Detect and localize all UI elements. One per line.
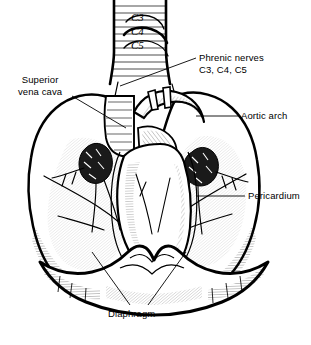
label-pericardium: Pericardium xyxy=(248,190,300,202)
label-diaphragm: Diaphragm xyxy=(108,308,155,320)
label-phrenic-nerves: Phrenic nervesC3, C4, C5 xyxy=(199,52,264,75)
label-phrenic-line2: C3, C4, C5 xyxy=(199,64,247,75)
anatomy-illustration xyxy=(0,0,311,345)
label-svc-line1: Superior xyxy=(22,74,59,85)
label-nerve-root-c3: C3 xyxy=(131,11,144,23)
label-superior-vena-cava: Superiorvena cava xyxy=(18,74,62,97)
label-nerve-root-c4: C4 xyxy=(131,25,144,37)
label-svc-line2: vena cava xyxy=(18,86,62,97)
label-nerve-root-c5: C5 xyxy=(131,39,144,51)
anatomy-figure: Phrenic nervesC3, C4, C5 Superiorvena ca… xyxy=(0,0,311,345)
label-aortic-arch: Aortic arch xyxy=(241,110,288,122)
label-phrenic-line1: Phrenic nerves xyxy=(199,52,264,63)
